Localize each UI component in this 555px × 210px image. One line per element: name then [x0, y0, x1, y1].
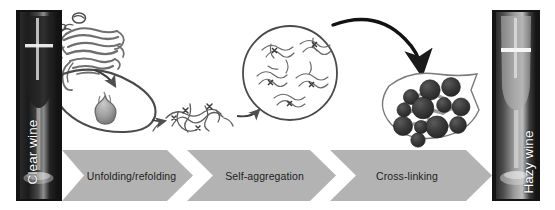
hazy-wine-photo: Hazy wine — [492, 10, 540, 201]
protein-haze-diagram: Clear wine Hazy wine Unfolding/refolding… — [0, 0, 555, 210]
arrow-globule-to-unfolded — [152, 120, 165, 121]
step-label-unfolding-refolding: Unfolding/refolding — [84, 150, 179, 201]
folded-protein-icon — [59, 13, 124, 90]
process-band: Unfolding/refolding Self-aggregation Cro… — [62, 150, 492, 201]
step-label-self-aggregation: Self-aggregation — [212, 150, 317, 201]
step-label-cross-linking: Cross-linking — [357, 150, 457, 201]
molten-globule-icon — [57, 70, 155, 132]
crosslinked-particles-icon — [382, 73, 479, 147]
aggregate-circle-icon — [243, 26, 337, 120]
arrow-unfolded-to-aggregate — [237, 110, 259, 116]
unfolded-protein-icon — [153, 104, 233, 132]
arrow-aggregate-to-crosslink — [333, 19, 421, 68]
clear-wine-photo: Clear wine — [16, 10, 62, 201]
hazy-wine-label: Hazy wine — [521, 130, 536, 193]
clear-wine-label: Clear wine — [25, 120, 40, 185]
